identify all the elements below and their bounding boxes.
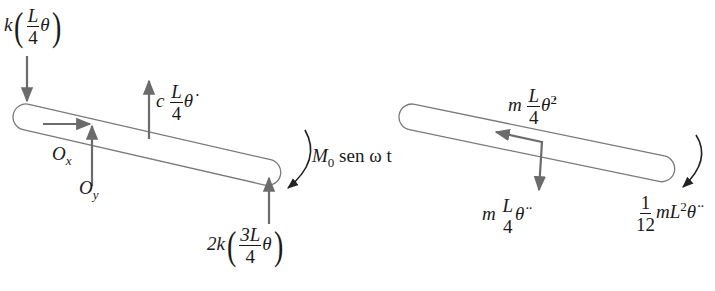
pin-force-y-label: Oy: [79, 178, 99, 201]
spring-force-right-label: 2k(3L4θ): [207, 225, 285, 266]
spring-force-left-label: k(L4θ): [4, 6, 63, 47]
tangential-inertia-arrow: [539, 141, 542, 190]
normal-inertia-arrow: [496, 132, 542, 142]
angular-inertia-arrow: [683, 135, 702, 187]
pin-force-x-label: Ox: [52, 144, 72, 167]
normal-inertia-label: m L4θ̇2: [508, 86, 557, 127]
applied-moment-label: M0 sen ω t: [312, 146, 392, 169]
angular-inertia-label: 112mL2θ̈: [635, 193, 696, 234]
damper-force-label: c L4θ̇: [156, 82, 193, 123]
applied-moment-arrow: [288, 130, 311, 188]
tangential-inertia-label: m L4θ̈: [482, 196, 524, 236]
